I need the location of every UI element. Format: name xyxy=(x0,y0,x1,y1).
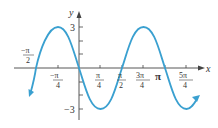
svg-text:−π: −π xyxy=(21,46,30,55)
svg-text:4: 4 xyxy=(140,81,144,90)
svg-text:−π: −π xyxy=(50,71,59,80)
y-tick-label-3: 3 xyxy=(70,22,75,33)
svg-text:5π: 5π xyxy=(179,71,187,80)
svg-text:π: π xyxy=(96,71,100,80)
x-tick-label-5pi-over-4: 5π 4 xyxy=(179,71,193,90)
svg-text:4: 4 xyxy=(97,81,101,90)
x-tick-label-3pi-over-4: 3π 4 xyxy=(136,71,150,90)
sine-graph: y x 3 −3 −π 2 −π 4 π 4 π 2 3π 4 π 5π 4 xyxy=(0,0,218,128)
svg-text:4: 4 xyxy=(56,81,60,90)
x-tick-label-neg-pi-over-4: −π 4 xyxy=(50,71,63,90)
svg-text:3π: 3π xyxy=(136,71,144,80)
y-axis-arrow-icon xyxy=(77,11,82,18)
y-axis-label: y xyxy=(68,7,74,18)
y-tick-label-neg3: −3 xyxy=(64,104,75,115)
x-tick-label-pi-over-2: π 2 xyxy=(117,71,126,90)
svg-text:2: 2 xyxy=(119,81,123,90)
svg-text:4: 4 xyxy=(183,81,187,90)
x-axis-label: x xyxy=(205,63,211,74)
svg-text:2: 2 xyxy=(26,56,30,65)
x-tick-label-neg-pi-over-2: −π 2 xyxy=(21,46,34,65)
svg-text:π: π xyxy=(118,71,122,80)
x-axis-arrow-icon xyxy=(198,66,205,71)
curve-end-arrow-icon xyxy=(192,95,200,102)
x-tick-label-pi-over-4: π 4 xyxy=(95,71,104,90)
x-tick-label-pi: π xyxy=(155,70,161,82)
